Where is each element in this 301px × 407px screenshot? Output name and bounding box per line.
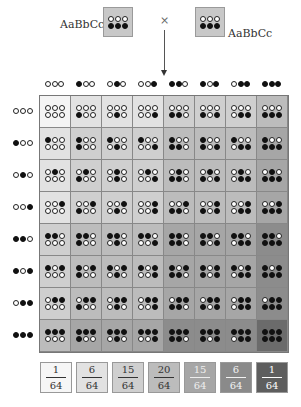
recessive-allele-dot-icon <box>107 81 113 87</box>
dominant-allele-dot-icon <box>52 297 58 303</box>
fraction-denominator: 64 <box>230 380 243 391</box>
dominant-allele-dot-icon <box>76 329 82 335</box>
dominant-allele-dot-icon <box>145 297 151 303</box>
recessive-allele-dot-icon <box>169 297 175 303</box>
dominant-allele-dot-icon <box>245 304 251 310</box>
row-gamete-alleles <box>169 137 189 143</box>
dominant-allele-dot-icon <box>200 329 206 335</box>
right-parent-box <box>195 7 225 37</box>
gamete-alleles <box>13 172 33 178</box>
row-gamete-alleles <box>169 233 189 239</box>
recessive-allele-dot-icon <box>52 105 58 111</box>
recessive-allele-dot-icon <box>200 105 206 111</box>
row-gamete-alleles <box>200 137 220 143</box>
dominant-allele-dot-icon <box>169 304 175 310</box>
column-gamete-alleles <box>107 240 127 246</box>
dominant-allele-dot-icon <box>121 265 127 271</box>
recessive-allele-dot-icon <box>45 208 51 214</box>
recessive-allele-dot-icon <box>207 265 213 271</box>
recessive-allele-dot-icon <box>52 240 58 246</box>
recessive-allele-dot-icon <box>59 208 65 214</box>
row-gamete-alleles <box>138 233 158 239</box>
dominant-allele-dot-icon <box>238 233 244 239</box>
recessive-allele-dot-icon <box>76 297 82 303</box>
dominant-allele-dot-icon <box>20 332 26 338</box>
column-gamete-alleles <box>76 336 96 342</box>
recessive-allele-dot-icon <box>207 144 213 150</box>
recessive-allele-dot-icon <box>138 169 144 175</box>
genotype-cell <box>40 256 71 288</box>
recessive-allele-dot-icon <box>107 336 113 342</box>
dominant-allele-dot-icon <box>269 81 275 87</box>
recessive-allele-dot-icon <box>121 304 127 310</box>
column-gamete-alleles <box>138 240 158 246</box>
dominant-allele-dot-icon <box>152 144 158 150</box>
recessive-allele-dot-icon <box>27 140 33 146</box>
dominant-allele-dot-icon <box>176 169 182 175</box>
genotype-cell <box>195 192 226 224</box>
dominant-allele-dot-icon <box>183 265 189 271</box>
dominant-allele-dot-icon <box>45 233 51 239</box>
dominant-allele-dot-icon <box>108 23 114 29</box>
dominant-allele-dot-icon <box>200 176 206 182</box>
dominant-allele-dot-icon <box>13 140 19 146</box>
dominant-allele-dot-icon <box>169 336 175 342</box>
recessive-allele-dot-icon <box>52 201 58 207</box>
column-gamete-alleles <box>262 304 282 310</box>
parent-allele-row <box>200 23 220 29</box>
recessive-allele-dot-icon <box>114 265 120 271</box>
dominant-allele-dot-icon <box>107 265 113 271</box>
recessive-allele-dot-icon <box>13 172 19 178</box>
recessive-allele-dot-icon <box>145 144 151 150</box>
recessive-allele-dot-icon <box>45 169 51 175</box>
dominant-allele-dot-icon <box>176 336 182 342</box>
recessive-allele-dot-icon <box>108 16 114 22</box>
dominant-allele-dot-icon <box>214 23 220 29</box>
dominant-allele-dot-icon <box>114 329 120 335</box>
row-gamete-header <box>10 319 36 351</box>
recessive-allele-dot-icon <box>145 265 151 271</box>
recessive-allele-dot-icon <box>231 81 237 87</box>
dominant-allele-dot-icon <box>276 240 282 246</box>
recessive-allele-dot-icon <box>59 304 65 310</box>
row-gamete-alleles <box>262 201 282 207</box>
recessive-allele-dot-icon <box>13 300 19 306</box>
dominant-allele-dot-icon <box>59 265 65 271</box>
recessive-allele-dot-icon <box>45 112 51 118</box>
recessive-allele-dot-icon <box>207 208 213 214</box>
recessive-allele-dot-icon <box>90 208 96 214</box>
recessive-allele-dot-icon <box>90 105 96 111</box>
dominant-allele-dot-icon <box>213 81 219 87</box>
dominant-allele-dot-icon <box>200 272 206 278</box>
column-gamete-alleles <box>76 144 96 150</box>
genotype-cell <box>133 288 164 320</box>
genotype-cell <box>133 128 164 160</box>
dominant-allele-dot-icon <box>45 329 51 335</box>
genotype-cell <box>226 128 257 160</box>
column-gamete-alleles <box>231 176 251 182</box>
recessive-allele-dot-icon <box>183 144 189 150</box>
dominant-allele-dot-icon <box>90 297 96 303</box>
recessive-allele-dot-icon <box>231 208 237 214</box>
genotype-cell <box>102 320 133 352</box>
recessive-allele-dot-icon <box>45 272 51 278</box>
dominant-allele-dot-icon <box>214 144 220 150</box>
genotype-cell <box>257 288 288 320</box>
gamete-alleles <box>13 332 33 338</box>
dominant-allele-dot-icon <box>214 176 220 182</box>
recessive-allele-dot-icon <box>45 297 51 303</box>
genotype-cell <box>102 256 133 288</box>
dominant-allele-dot-icon <box>231 329 237 335</box>
recessive-allele-dot-icon <box>214 169 220 175</box>
gamete-alleles <box>13 108 33 114</box>
genotype-cell <box>133 160 164 192</box>
dominant-allele-dot-icon <box>276 176 282 182</box>
recessive-allele-dot-icon <box>152 233 158 239</box>
column-gamete-alleles <box>200 112 220 118</box>
dominant-allele-dot-icon <box>76 208 82 214</box>
genotype-cell <box>226 256 257 288</box>
dominant-allele-dot-icon <box>269 329 275 335</box>
dominant-allele-dot-icon <box>76 304 82 310</box>
dominant-allele-dot-icon <box>262 329 268 335</box>
dominant-allele-dot-icon <box>169 329 175 335</box>
